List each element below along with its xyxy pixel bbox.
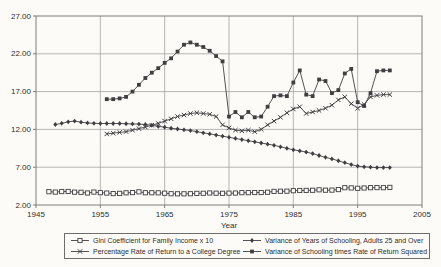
series-marker-2	[343, 160, 347, 165]
series-marker-0	[79, 190, 83, 194]
legend-sample-marker	[250, 250, 254, 254]
series-marker-0	[73, 190, 77, 194]
series-marker-2	[246, 138, 250, 143]
series-marker-2	[356, 164, 360, 169]
series-marker-2	[85, 121, 89, 126]
series-marker-2	[304, 150, 308, 155]
series-marker-0	[272, 189, 276, 193]
series-marker-3	[234, 110, 238, 114]
series-marker-2	[169, 126, 173, 131]
series-marker-2	[182, 127, 186, 132]
series-marker-2	[362, 164, 366, 169]
x-axis-title: Year	[221, 221, 238, 230]
series-marker-3	[118, 97, 122, 101]
series-marker-1	[169, 117, 173, 121]
series-marker-0	[323, 188, 327, 192]
series-marker-3	[124, 95, 128, 99]
series-marker-3	[349, 67, 353, 71]
series-marker-0	[85, 191, 89, 195]
series-marker-2	[111, 121, 115, 126]
series-marker-1	[330, 103, 334, 107]
schooling-inequality-figure: 27.0022.0017.0012.007.002.00194519551965…	[0, 0, 441, 267]
series-marker-3	[105, 97, 109, 101]
series-marker-1	[343, 95, 347, 99]
series-marker-2	[317, 153, 321, 158]
series-marker-2	[53, 122, 57, 127]
chart-legend: Gini Coefficient for Family Income x 10 …	[64, 233, 430, 259]
series-marker-0	[356, 186, 360, 190]
legend-item-gini: Gini Coefficient for Family Income x 10	[71, 236, 243, 245]
series-marker-2	[266, 142, 270, 147]
series-marker-3	[189, 41, 193, 45]
series-line-1	[107, 95, 390, 134]
series-marker-3	[208, 49, 212, 53]
y-tick-label: 17.00	[11, 87, 32, 96]
legend-label-variance-schooling: Variance of Years of Schooling, Adults 2…	[265, 237, 423, 244]
series-marker-3	[285, 94, 289, 98]
series-marker-3	[131, 90, 135, 94]
series-marker-0	[330, 188, 334, 192]
series-marker-0	[304, 188, 308, 192]
series-marker-2	[73, 119, 77, 124]
series-marker-1	[272, 119, 276, 123]
legend-label-rate-of-return: Percentage Rate of Return to a College D…	[93, 248, 240, 255]
series-marker-0	[156, 191, 160, 195]
series-marker-3	[163, 61, 167, 65]
series-marker-3	[330, 91, 334, 95]
series-marker-0	[143, 191, 147, 195]
series-marker-1	[220, 123, 224, 127]
series-marker-2	[214, 133, 218, 138]
series-marker-0	[285, 189, 289, 193]
series-marker-2	[124, 121, 128, 126]
series-marker-2	[272, 143, 276, 148]
series-marker-0	[53, 190, 57, 194]
series-marker-3	[246, 110, 250, 114]
series-marker-2	[349, 162, 353, 167]
series-marker-3	[176, 50, 180, 54]
series-marker-2	[79, 120, 83, 125]
series-marker-2	[375, 165, 379, 170]
series-marker-3	[304, 93, 308, 97]
series-marker-0	[130, 191, 134, 195]
series-marker-2	[369, 165, 373, 170]
x-tick-label: 1995	[349, 210, 367, 219]
series-marker-0	[278, 189, 282, 193]
series-marker-0	[362, 186, 366, 190]
x-tick-label: 2005	[413, 210, 431, 219]
series-marker-3	[227, 115, 231, 119]
series-marker-2	[388, 165, 392, 170]
series-marker-3	[317, 78, 321, 82]
series-marker-0	[266, 190, 270, 194]
series-marker-0	[214, 191, 218, 195]
series-marker-0	[349, 186, 353, 190]
series-marker-0	[298, 188, 302, 192]
series-marker-3	[343, 72, 347, 76]
series-marker-2	[324, 155, 328, 160]
legend-sample-marker	[250, 238, 254, 243]
series-marker-0	[188, 192, 192, 196]
series-marker-2	[240, 137, 244, 142]
series-marker-3	[382, 69, 386, 73]
series-marker-2	[336, 158, 340, 163]
x-cross-marker-icon	[71, 247, 89, 256]
legend-sample-marker	[78, 238, 82, 242]
series-marker-3	[143, 76, 147, 80]
series-marker-0	[368, 186, 372, 190]
series-marker-2	[60, 121, 64, 126]
series-marker-2	[66, 119, 70, 124]
legend-label-variance-times-return: Variance of Schooling times Rate of Retu…	[265, 248, 427, 255]
series-marker-3	[259, 115, 263, 119]
series-marker-3	[291, 81, 295, 85]
y-tick-label: 27.00	[11, 12, 32, 21]
series-marker-3	[356, 100, 360, 104]
series-marker-2	[381, 165, 385, 170]
series-marker-1	[323, 106, 327, 110]
series-marker-0	[105, 191, 109, 195]
series-marker-3	[369, 91, 373, 95]
series-marker-0	[60, 189, 64, 193]
series-marker-0	[220, 191, 224, 195]
series-marker-3	[195, 43, 199, 47]
series-marker-3	[201, 45, 205, 49]
series-marker-0	[291, 189, 295, 193]
series-marker-3	[375, 69, 379, 73]
